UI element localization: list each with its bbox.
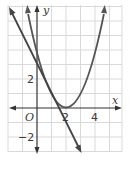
x-axis-left-arrow-icon: [9, 106, 16, 111]
line-top-arrow-icon: [9, 7, 16, 16]
y-tick-label-neg2: −2: [18, 131, 34, 144]
origin-label: O: [25, 111, 34, 124]
y-axis-down-arrow-icon: [35, 147, 40, 154]
graph: y x O 2 4 2 −2: [0, 0, 130, 169]
grid: [8, 5, 122, 152]
tangent-line: [12, 13, 79, 147]
x-tick-label-4: 4: [91, 111, 98, 124]
x-axis-label: x: [112, 94, 119, 107]
y-tick-label-2: 2: [27, 73, 34, 86]
x-tick-label-2: 2: [62, 111, 69, 124]
y-axis-label: y: [42, 4, 50, 17]
